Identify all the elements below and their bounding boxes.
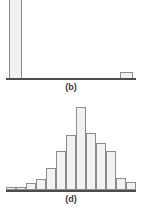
figure-panel-b: (b) — [0, 0, 142, 100]
figure-caption-d: (d) — [0, 194, 142, 204]
histogram-b-baseline-axis — [6, 78, 136, 80]
histogram-d-bar — [96, 143, 106, 190]
histogram-d-bar — [56, 151, 66, 190]
histogram-d-bar — [76, 107, 86, 190]
histogram-d-bar — [36, 179, 46, 190]
histogram-d-bar — [86, 133, 96, 190]
histogram-d-bar — [126, 182, 136, 190]
histogram-d-bar — [66, 135, 76, 190]
histogram-d-plot-area — [0, 104, 142, 190]
histogram-d-bar — [46, 168, 56, 190]
histogram-b-bar — [9, 0, 22, 80]
figure-caption-b: (b) — [0, 82, 142, 92]
histogram-b-plot-area — [0, 0, 142, 80]
figure-panel-d: (d) — [0, 100, 142, 214]
histogram-d-bar — [106, 151, 116, 190]
histogram-d-bar — [116, 178, 126, 190]
histogram-d-bar — [26, 183, 36, 190]
histogram-d-baseline-axis — [6, 190, 136, 192]
